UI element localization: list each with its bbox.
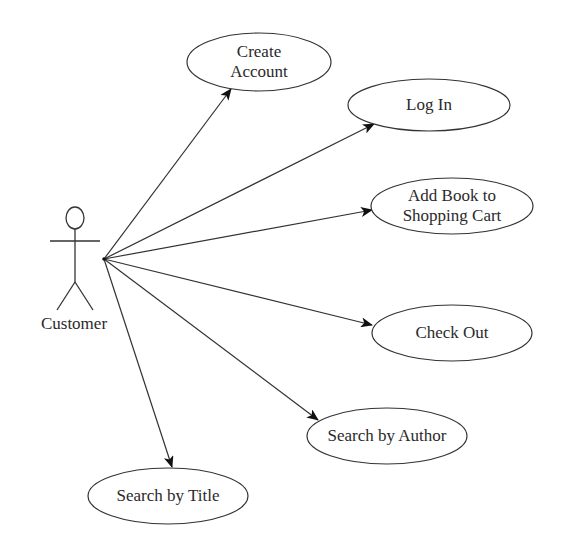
use-case-label-line: Check Out [415,323,488,343]
use-case-label-add-book-to-shopping-cart: Add Book toShopping Cart [403,186,502,226]
use-case-label-line: Search by Author [328,426,447,446]
actor-left-leg [57,282,75,310]
association-arrow-add-book-to-shopping-cart [104,210,372,259]
association-arrow-log-in [104,124,374,259]
use-case-label-line: Create [230,42,288,62]
use-case-label-check-out: Check Out [415,323,488,343]
use-case-label-line: Add Book to [403,186,502,206]
actor-stick-figure-icon [50,207,100,310]
use-case-label-line: Account [230,62,288,82]
use-case-label-create-account: CreateAccount [230,42,288,82]
actor-label: Customer [41,314,107,334]
use-cases [88,33,533,524]
use-case-label-search-by-title: Search by Title [117,486,220,506]
association-arrow-check-out [104,259,372,325]
association-hub [102,257,106,261]
associations [102,89,374,467]
use-case-label-line: Shopping Cart [403,206,502,226]
actor-right-leg [75,282,93,310]
association-arrow-search-by-title [104,259,172,467]
use-case-label-search-by-author: Search by Author [328,426,447,446]
use-case-diagram: Customer CreateAccountLog InAdd Book toS… [0,0,562,538]
use-case-label-line: Search by Title [117,486,220,506]
use-case-label-log-in: Log In [406,95,452,115]
association-arrow-search-by-author [104,259,318,420]
association-arrow-create-account [104,89,231,259]
actor-head [66,207,84,229]
use-case-label-line: Log In [406,95,452,115]
